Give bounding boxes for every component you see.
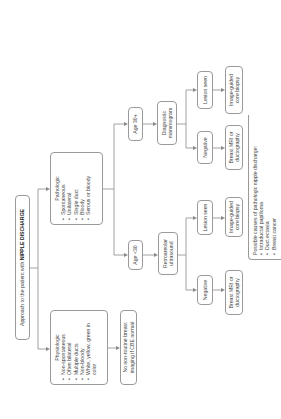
under-30-negative-box: Negative	[197, 275, 213, 305]
pathologic-box: Pathologic Spontaneous Unilateral Single…	[50, 152, 103, 225]
pathologic-item: Serous or bloody	[85, 176, 91, 215]
30-plus-lesion-text: Lesion seen	[202, 76, 208, 104]
possible-causes-box: Possible causes of pathologic nipple dis…	[248, 115, 281, 260]
under-30-lesion-text: Lesion seen	[202, 204, 208, 232]
physiologic-box: Physiologic Non-spontaneous Often bilate…	[50, 310, 108, 385]
age-30-plus-label: Age 30+	[132, 114, 138, 133]
no-imaging-text: No non-routine breast imaging if CBE nor…	[122, 313, 134, 382]
30-plus-lesion-box: Lesion seen	[197, 71, 213, 109]
30-plus-mri-text: Breast MRI or ductography	[228, 128, 240, 167]
title-box: Approach to the patient with NIPPLE DISC…	[15, 195, 30, 340]
under-30-negative-text: Negative	[202, 280, 208, 300]
diagnostic-mammogram-box: Diagnostic mammogram	[157, 101, 177, 145]
under-30-biopsy-box: Image-guided core biopsy	[225, 197, 243, 237]
no-imaging-box: No non-routine breast imaging if CBE nor…	[120, 310, 137, 385]
age-30-plus-box: Age 30+	[128, 107, 143, 141]
diagnostic-mammogram-text: Diagnostic mammogram	[161, 104, 173, 142]
retroareolar-ultrasound-text: Retroareolar ultrasound	[162, 235, 174, 272]
30-plus-biopsy-text: Image-guided core biopsy	[228, 69, 240, 111]
30-plus-mri-box: Breast MRI or ductography	[225, 125, 243, 170]
physiologic-item: White, yellow, green in color	[85, 315, 97, 375]
under-30-biopsy-text: Image-guided core biopsy	[228, 200, 240, 234]
pathologic-list: Spontaneous Unilateral Single duct Blood…	[60, 176, 91, 220]
30-plus-negative-text: Negative	[202, 137, 208, 157]
age-under-30-box: Age <30	[128, 240, 143, 270]
under-30-mri-box: Breast MRI or ductography	[225, 270, 243, 315]
possible-cause-item: Breast cancer	[271, 202, 277, 250]
rotated-flowchart: Approach to the patient with NIPPLE DISC…	[0, 0, 281, 419]
title-prefix: Approach to the patient with	[19, 260, 25, 326]
physiologic-list: Non-spontaneous Often bilateral Multiple…	[60, 315, 97, 380]
30-plus-biopsy-box: Image-guided core biopsy	[225, 66, 243, 114]
possible-causes-list: Intraductal papilloma Duct ectasia Breas…	[258, 202, 277, 255]
under-30-mri-text: Breast MRI or ductography	[228, 273, 240, 312]
age-under-30-label: Age <30	[132, 245, 138, 264]
title-emphasis: NIPPLE DISCHARGE	[19, 209, 25, 260]
under-30-lesion-box: Lesion seen	[197, 200, 213, 235]
30-plus-negative-box: Negative	[197, 131, 213, 164]
retroareolar-ultrasound-box: Retroareolar ultrasound	[158, 232, 178, 275]
